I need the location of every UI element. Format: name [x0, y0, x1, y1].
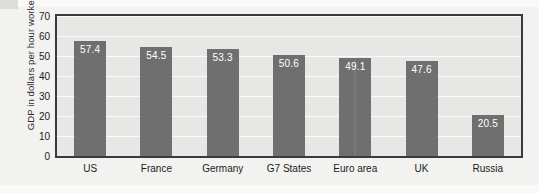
bar: 54.5 — [140, 47, 172, 156]
plot-inner: 57.454.553.350.649.147.620.5 — [57, 16, 521, 156]
scan-artifact-bottom — [0, 185, 539, 193]
bar: 50.6 — [273, 55, 305, 156]
category-label: Euro area — [333, 163, 377, 174]
category-label: G7 States — [267, 163, 311, 174]
bar: 53.3 — [207, 49, 239, 156]
y-axis-tick-label: 70 — [26, 11, 50, 22]
bar-value-label: 47.6 — [406, 64, 438, 75]
gridline — [57, 16, 521, 17]
bar: 20.5 — [472, 115, 504, 156]
category-label: US — [83, 163, 97, 174]
bar: 47.6 — [406, 61, 438, 156]
category-label: Russia — [473, 163, 504, 174]
bar-value-label: 20.5 — [472, 118, 504, 129]
bar: 57.4 — [74, 41, 106, 156]
category-label: France — [141, 163, 172, 174]
y-axis-tick-labels: 010203040506070 — [26, 0, 50, 193]
bar-value-label: 50.6 — [273, 58, 305, 69]
category-label: Germany — [202, 163, 243, 174]
bar: 49.1 — [339, 58, 371, 156]
plot-area: 57.454.553.350.649.147.620.5 — [55, 14, 523, 158]
bar-value-label: 54.5 — [140, 50, 172, 61]
y-axis-tick-label: 40 — [26, 71, 50, 82]
bar-value-label: 53.3 — [207, 52, 239, 63]
gridline — [57, 36, 521, 37]
y-axis-tick-label: 10 — [26, 131, 50, 142]
bar-value-label: 49.1 — [339, 61, 371, 72]
scan-streak — [354, 58, 356, 156]
scan-artifact-top — [0, 0, 539, 7]
y-axis-tick-label: 0 — [26, 151, 50, 162]
category-label: UK — [415, 163, 429, 174]
y-axis-tick-label: 20 — [26, 111, 50, 122]
y-axis-tick-label: 50 — [26, 51, 50, 62]
chart-screenshot: GDP in dollars per hour worked 010203040… — [0, 0, 539, 193]
y-axis-tick-label: 60 — [26, 31, 50, 42]
bar-value-label: 57.4 — [74, 44, 106, 55]
scan-artifact-corner — [0, 0, 18, 9]
y-axis-tick-label: 30 — [26, 91, 50, 102]
